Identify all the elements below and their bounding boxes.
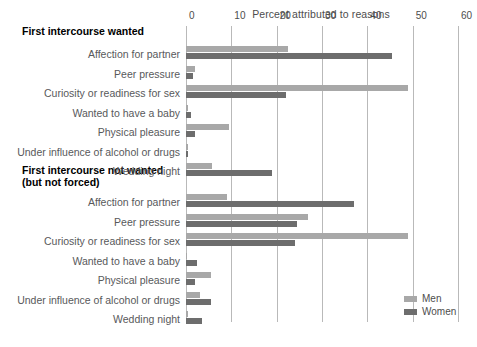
bar-women [186,53,392,59]
x-tick-label-10: 10 [231,10,245,21]
x-tick-label-30: 30 [322,10,336,21]
bar-men [186,124,229,130]
bar-women [186,151,188,157]
bar-women [186,170,272,176]
bar-men [186,311,188,317]
bar-men [186,253,187,259]
bar-men [186,105,188,111]
category-label: Affection for partner [8,48,186,60]
category-label: Curiosity or readiness for sex [8,235,186,247]
legend-item-men: Men [404,292,456,305]
bar-women [186,318,202,324]
x-tick-label-20: 20 [277,10,291,21]
bar-men [186,66,195,72]
legend-swatch-men-icon [404,296,417,302]
legend: Men Women [404,292,456,318]
category-label: Wedding night [8,165,186,177]
bar-women [186,131,195,137]
gridline-20 [277,26,278,322]
bar-women [186,73,193,79]
legend-swatch-women-icon [404,309,417,315]
bar-men [186,233,408,239]
bar-men [186,272,211,278]
bar-men [186,292,200,298]
x-tick-label-50: 50 [413,10,427,21]
category-label: Peer pressure [8,216,186,228]
bar-women [186,112,191,118]
legend-item-women: Women [404,305,456,318]
x-tick-label-40: 40 [367,10,381,21]
bar-women [186,201,354,207]
gridline-60 [458,26,459,322]
bar-women [186,240,295,246]
gridline-30 [322,26,323,322]
bar-men [186,194,227,200]
bar-men [186,85,408,91]
category-label: Wanted to have a baby [8,107,186,119]
legend-label-men: Men [422,293,441,304]
bar-women [186,299,211,305]
category-label: Peer pressure [8,68,186,80]
bar-women [186,260,197,266]
gridline-40 [367,26,368,322]
category-label: Under influence of alcohol or drugs [8,146,186,158]
x-tick-label-60: 60 [458,10,472,21]
bar-women [186,221,297,227]
category-label: Affection for partner [8,196,186,208]
bar-men [186,214,308,220]
category-label: Physical pleasure [8,274,186,286]
category-label: Wanted to have a baby [8,255,186,267]
x-tick-label-0: 0 [186,10,195,21]
chart-root: Percent attributed to reasons 0102030405… [0,0,477,347]
category-label: Wedding night [8,313,186,325]
gridline-50 [413,26,414,322]
bar-men [186,144,188,150]
category-label: Curiosity or readiness for sex [8,87,186,99]
bar-women [186,279,195,285]
section-heading-wanted: First intercourse wanted [22,25,144,37]
bar-men [186,46,288,52]
bar-men [186,163,212,169]
category-label: Under influence of alcohol or drugs [8,294,186,306]
legend-label-women: Women [422,306,456,317]
category-label: Physical pleasure [8,126,186,138]
bar-women [186,92,286,98]
